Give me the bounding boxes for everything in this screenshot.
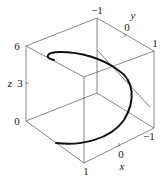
box-edge — [26, 93, 97, 121]
x-tick-0: 0 — [118, 148, 124, 160]
box-edge — [84, 51, 154, 77]
box-edge — [26, 121, 84, 163]
y-tick-m1: −1 — [91, 4, 103, 16]
y-axis-label: y — [130, 9, 136, 21]
x-axis-label: x — [119, 160, 125, 172]
x-tick-1: 1 — [83, 165, 89, 177]
ticks — [26, 34, 125, 146]
y-tick-0: 0 — [124, 21, 130, 33]
box-edge — [26, 46, 84, 77]
z-tick-0: 0 — [14, 115, 20, 127]
guide-line — [97, 50, 150, 107]
box-edge — [97, 93, 154, 128]
y-tick-1: 1 — [152, 37, 158, 49]
3d-plot: 6 3 z 0 −1 y 0 1 1 0 x −1 — [0, 0, 164, 178]
box-edge — [26, 18, 97, 46]
z-tick-6: 6 — [14, 40, 20, 52]
z-tick-3: 3 — [17, 77, 23, 89]
x-tick-m1: −1 — [143, 130, 155, 142]
z-axis-label: z — [7, 77, 13, 89]
helix-curve — [48, 52, 132, 144]
